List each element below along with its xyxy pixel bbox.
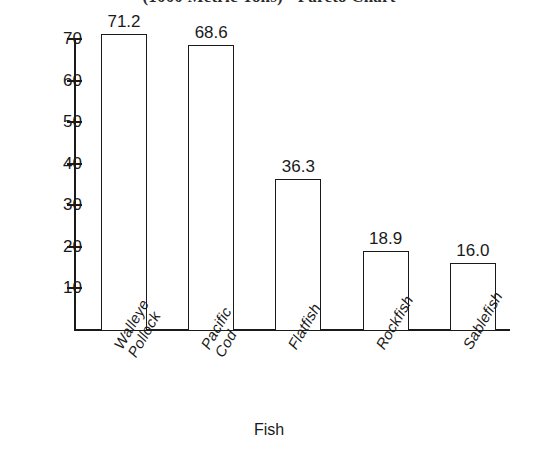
bar-value-label: 68.6: [174, 24, 248, 41]
y-tick-label: 40: [36, 155, 82, 172]
y-tick-label: 20: [36, 238, 82, 255]
y-tick-label: 50: [36, 113, 82, 130]
bar-value-label: 71.2: [87, 13, 161, 30]
bar-value-label: 36.3: [261, 158, 335, 175]
x-axis-title: Fish: [0, 421, 538, 439]
y-tick-label: 70: [36, 30, 82, 47]
y-tick-label: 60: [36, 72, 82, 89]
bar-walleye-pollock: [101, 34, 147, 331]
bar-pacific-cod: [188, 45, 234, 331]
y-tick-label: 30: [36, 196, 82, 213]
y-tick-label: 10: [36, 279, 82, 296]
plot-area: 70605040302010 71.268.636.318.916.0 Wall…: [0, 0, 538, 449]
bar-value-label: 18.9: [349, 230, 423, 247]
bar-value-label: 16.0: [436, 242, 510, 259]
